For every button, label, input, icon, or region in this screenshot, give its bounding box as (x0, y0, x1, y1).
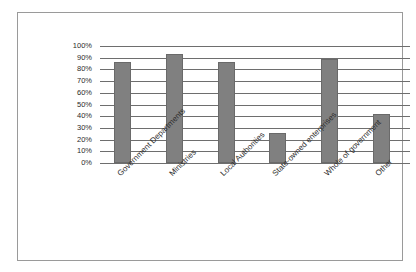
gridline (100, 93, 410, 94)
y-axis-tick-label: 30% (77, 124, 92, 132)
y-axis-tick-label: 60% (77, 89, 92, 97)
y-axis-tick-label: 50% (77, 101, 92, 109)
bar[interactable] (166, 54, 183, 163)
y-axis-tick-label: 70% (77, 77, 92, 85)
bar[interactable] (114, 62, 131, 163)
y-axis-tick-label: 90% (77, 54, 92, 62)
gridline (100, 46, 410, 47)
y-axis-tick-label: 10% (77, 148, 92, 156)
gridline (100, 116, 410, 117)
chart-frame: 100%90%80%70%60%50%40%30%20%10%0% Govern… (17, 12, 403, 261)
y-axis-tick-label: 80% (77, 66, 92, 74)
y-axis-tick-label: 0% (81, 159, 92, 167)
bar[interactable] (218, 62, 235, 163)
y-axis-tick-label: 100% (73, 42, 92, 50)
y-axis-tick-label: 40% (77, 112, 92, 120)
gridline (100, 69, 410, 70)
bar[interactable] (269, 133, 286, 163)
y-axis-tick-labels: 100%90%80%70%60%50%40%30%20%10%0% (56, 46, 96, 163)
bar[interactable] (321, 59, 338, 163)
gridline (100, 58, 410, 59)
gridline (100, 81, 410, 82)
plot-area (100, 46, 410, 163)
gridline (100, 105, 410, 106)
gridline (100, 151, 410, 152)
y-axis-tick-label: 20% (77, 136, 92, 144)
gridline (100, 128, 410, 129)
gridline (100, 163, 410, 164)
gridline (100, 140, 410, 141)
bar[interactable] (373, 114, 390, 163)
